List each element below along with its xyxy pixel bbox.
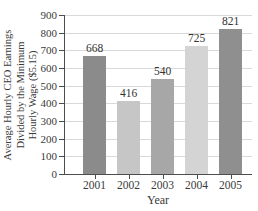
x-axis-title: Year [64,193,252,208]
bar-value-label-2001: 668 [75,42,115,54]
y-tick-label-500: 500 [27,81,57,92]
x-tick-2001 [95,175,96,179]
y-tick-label-700: 700 [27,45,57,56]
bar-value-label-2004: 725 [177,32,217,44]
bar-2004 [185,46,208,174]
bar-value-label-2005: 821 [211,15,251,27]
bar-2002 [117,101,140,174]
y-axis-title-line-2: Divided by the Minimum [15,9,28,181]
bar-value-label-2003: 540 [143,65,183,77]
x-tick-2002 [129,175,130,179]
y-axis-line [64,15,65,175]
x-tick-2005 [231,175,232,179]
x-category-label-2005: 2005 [211,179,251,191]
bar-value-label-2002: 416 [109,87,149,99]
x-tick-2003 [163,175,164,179]
y-tick-label-200: 200 [27,134,57,145]
y-tick-label-0: 0 [27,169,57,180]
y-tick-label-100: 100 [27,151,57,162]
y-tick-label-600: 600 [27,63,57,74]
bar-2003 [151,79,174,174]
x-axis-line [64,174,252,175]
bar-2005 [219,29,242,174]
ceo-earnings-bar-chart: Average Hourly CEO Earnings Divided by t… [0,0,258,211]
y-axis-title-line-1: Average Hourly CEO Earnings [2,9,15,181]
bar-2001 [83,56,106,174]
y-tick-label-400: 400 [27,98,57,109]
y-tick-label-300: 300 [27,116,57,127]
y-tick-label-900: 900 [27,10,57,21]
y-tick-label-800: 800 [27,28,57,39]
x-tick-2004 [197,175,198,179]
